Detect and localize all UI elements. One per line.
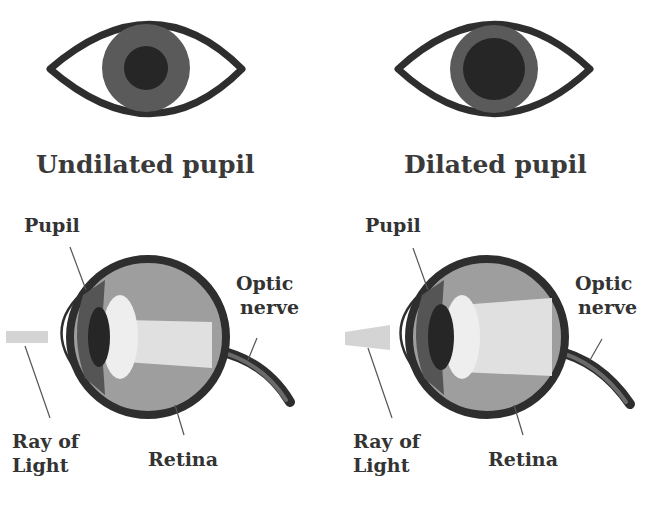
- dilated-eye-icon: [398, 25, 590, 114]
- undilated-eye-icon: [50, 24, 242, 114]
- ray-of-light-label-line1: Ray of: [353, 430, 420, 452]
- optic-nerve-label-line2: nerve: [578, 296, 637, 318]
- optic-nerve-label-line1: Optic: [575, 272, 632, 294]
- ray-of-light-label-line1: Ray of: [12, 430, 79, 452]
- ray-of-light-label-line2: Light: [12, 454, 68, 476]
- eye-diagram-graphics: [0, 0, 649, 509]
- retina-label: Retina: [148, 448, 218, 470]
- optic-nerve-label-line1: Optic: [236, 272, 293, 294]
- pupil-label: Pupil: [365, 214, 421, 236]
- optic-nerve-label-line2: nerve: [240, 296, 299, 318]
- retina-label: Retina: [488, 448, 558, 470]
- ray-of-light-label-line2: Light: [353, 454, 409, 476]
- undilated-title: Undilated pupil: [36, 150, 254, 179]
- dilated-title: Dilated pupil: [404, 150, 587, 179]
- pupil-label: Pupil: [24, 214, 80, 236]
